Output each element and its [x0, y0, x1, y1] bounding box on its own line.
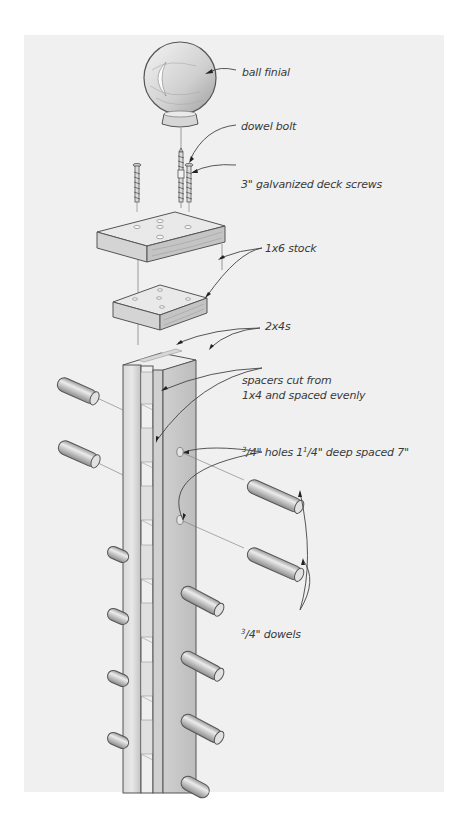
label-dowels: 3/4" dowels	[241, 626, 301, 641]
label-dowel-bolt: dowel bolt	[241, 120, 296, 133]
label-holes: 3/4" holes 11/4" deep spaced 7"	[242, 444, 409, 459]
label-deck-screws: 3" galvanized deck screws	[241, 178, 382, 191]
label-spacers-line2: 1x4 and spaced evenly	[242, 389, 365, 402]
label-spacers-line1: spacers cut from	[242, 374, 332, 387]
assembly-illustration	[0, 0, 456, 820]
deck-screw-right	[185, 163, 193, 212]
lower-1x6-block	[113, 285, 207, 330]
label-ball-finial: ball finial	[242, 66, 290, 79]
top-1x6-block	[97, 212, 225, 262]
label-1x6-stock: 1x6 stock	[265, 242, 316, 255]
dowel-bolt	[178, 148, 184, 202]
label-2x4s: 2x4s	[265, 320, 290, 333]
ball-finial	[144, 42, 216, 127]
deck-screw-left	[133, 163, 141, 212]
